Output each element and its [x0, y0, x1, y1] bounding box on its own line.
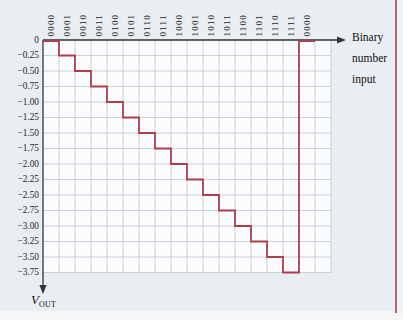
y-tick-label: −2.50	[0, 190, 39, 201]
x-tick-label-binary: 0000	[46, 5, 57, 37]
y-tick-label: −3.50	[0, 252, 39, 263]
y-tick-label: −1.75	[0, 143, 39, 154]
x-tick-label-binary: 1010	[206, 5, 217, 37]
y-tick-label: −0.75	[0, 81, 39, 92]
y-tick-label: −0.25	[0, 50, 39, 61]
x-axis-title: Binary number input	[352, 27, 387, 90]
x-tick-label-binary: 0100	[110, 5, 121, 37]
y-tick-label: −3.75	[0, 267, 39, 278]
x-tick-label-binary: 1111	[286, 5, 297, 37]
y-tick-label: −1.50	[0, 128, 39, 139]
y-tick-label: −2.00	[0, 159, 39, 170]
x-tick-label-binary: 1000	[174, 5, 185, 37]
x-axis-title-line: input	[352, 69, 387, 90]
staircase-plot	[0, 0, 403, 320]
y-tick-label: −3.00	[0, 221, 39, 232]
x-tick-label-binary: 0111	[158, 5, 169, 37]
x-tick-label-binary: 1011	[222, 5, 233, 37]
y-axis-title: VOUT	[31, 292, 56, 309]
vout-symbol: V	[31, 292, 39, 307]
x-axis-title-line: number	[352, 48, 387, 69]
page-bottom-band	[0, 311, 403, 320]
x-tick-label-binary: 0010	[78, 5, 89, 37]
vout-subscript: OUT	[39, 300, 56, 309]
y-tick-label: −1.25	[0, 112, 39, 123]
y-tick-label: −0.50	[0, 66, 39, 77]
dac-staircase-figure: 0−0.25−0.50−0.75−1.00−1.25−1.50−1.75−2.0…	[0, 0, 403, 320]
y-tick-label: 0	[0, 35, 39, 46]
page-margin-rule	[395, 0, 397, 313]
y-tick-label: −2.75	[0, 205, 39, 216]
x-tick-label-binary: 0110	[142, 5, 153, 37]
x-tick-label-binary: 0011	[94, 5, 105, 37]
x-tick-label-binary: 0101	[126, 5, 137, 37]
x-tick-label-binary: 1001	[190, 5, 201, 37]
x-tick-label-binary: 1110	[270, 5, 281, 37]
x-tick-label-binary: 1100	[238, 5, 249, 37]
y-tick-label: −3.25	[0, 236, 39, 247]
y-tick-label: −1.00	[0, 97, 39, 108]
x-tick-label-binary: 1101	[254, 5, 265, 37]
page-right-edge	[397, 0, 403, 313]
x-tick-label-binary: 0001	[62, 5, 73, 37]
y-tick-label: −2.25	[0, 174, 39, 185]
x-tick-label-binary: 0000	[302, 5, 313, 37]
x-axis-title-line: Binary	[352, 27, 387, 48]
x-axis-arrow-icon	[337, 36, 346, 43]
